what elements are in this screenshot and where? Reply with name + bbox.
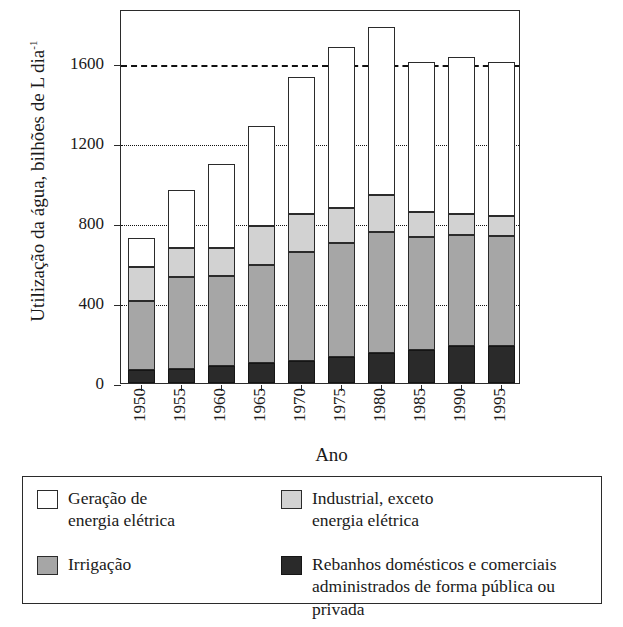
bar-segment [488, 346, 515, 383]
bar-segment [288, 77, 315, 214]
bar-segment [488, 62, 515, 216]
bar-segment [128, 370, 155, 383]
y-tick-800 [114, 225, 121, 226]
x-tick-label-1995: 1995 [490, 388, 510, 422]
y-tick-0 [114, 385, 121, 386]
y-tick-label-0: 0 [96, 374, 105, 394]
bar-segment [368, 232, 395, 353]
bar-segment [328, 243, 355, 357]
chart-legend: Geração deenergia elétricaIndustrial, ex… [22, 476, 602, 604]
x-tick-label-1980: 1980 [370, 388, 390, 422]
x-axis-tick-labels: 1950195519601965197019751980198519901995 [120, 388, 520, 448]
bar-1960[interactable] [208, 164, 235, 383]
bar-segment [368, 27, 395, 195]
bar-segment [168, 369, 195, 383]
y-tick-400 [114, 305, 121, 306]
bar-segment [448, 57, 475, 214]
bar-segment [488, 236, 515, 346]
x-axis-title-text: Ano [315, 444, 348, 465]
bar-1995[interactable] [488, 62, 515, 383]
bar-segment [448, 235, 475, 346]
legend-swatch-white [37, 490, 58, 509]
legend-item[interactable]: Rebanhos domésticos e comerciaisadminist… [281, 553, 593, 620]
x-tick-label-1970: 1970 [290, 388, 310, 422]
y-tick-label-800: 800 [79, 214, 105, 234]
x-axis-title: Ano [0, 444, 623, 466]
bar-segment [128, 301, 155, 370]
chart-figure: Utilização da água, bilhões de L dia-1 0… [0, 0, 623, 627]
bar-1980[interactable] [368, 27, 395, 383]
bar-segment [288, 252, 315, 361]
bar-segment [328, 357, 355, 383]
bar-segment [368, 353, 395, 383]
bar-segment [168, 277, 195, 369]
legend-item[interactable]: Irrigação [37, 553, 131, 575]
bar-1950[interactable] [128, 238, 155, 383]
legend-item[interactable]: Industrial, excetoenergia elétrica [281, 487, 433, 532]
x-tick-label-1955: 1955 [170, 388, 190, 422]
bar-segment [328, 208, 355, 243]
bar-segment [448, 214, 475, 235]
legend-label-line2: energia elétrica [312, 509, 433, 531]
bar-segment [408, 62, 435, 212]
x-tick-label-1975: 1975 [330, 388, 350, 422]
bar-segment [128, 267, 155, 301]
legend-label: Geração deenergia elétrica [68, 487, 175, 532]
legend-label: Industrial, excetoenergia elétrica [312, 487, 433, 532]
bar-segment [448, 346, 475, 383]
y-tick-1200 [114, 145, 121, 146]
bar-segment [208, 164, 235, 248]
legend-swatch-lightgray [281, 490, 302, 509]
legend-label: Rebanhos domésticos e comerciaisadminist… [312, 553, 593, 620]
bar-1955[interactable] [168, 190, 195, 383]
x-tick-label-1965: 1965 [250, 388, 270, 422]
bar-segment [208, 276, 235, 366]
legend-label: Irrigação [68, 553, 131, 575]
legend-item[interactable]: Geração deenergia elétrica [37, 487, 175, 532]
plot-inner [121, 11, 519, 383]
bar-segment [288, 214, 315, 252]
y-tick-1600 [114, 65, 121, 66]
y-tick-label-1600: 1600 [70, 54, 104, 74]
x-tick-label-1960: 1960 [210, 388, 230, 422]
legend-label-line2: administrados de forma pública ou privad… [312, 575, 593, 620]
bar-segment [328, 47, 355, 208]
bar-1990[interactable] [448, 57, 475, 383]
bar-segment [408, 350, 435, 383]
legend-swatch-midgray [37, 556, 58, 575]
bar-segment [408, 212, 435, 237]
bar-1965[interactable] [248, 126, 275, 383]
legend-swatch-dark [281, 556, 302, 575]
x-tick-label-1950: 1950 [130, 388, 150, 422]
bar-1970[interactable] [288, 77, 315, 383]
bar-segment [168, 248, 195, 277]
bar-segment [368, 195, 395, 232]
y-tick-label-400: 400 [79, 294, 105, 314]
x-tick-label-1990: 1990 [450, 388, 470, 422]
y-tick-label-1200: 1200 [70, 134, 104, 154]
y-axis-tick-labels: 040080012001600 [0, 0, 113, 374]
bar-1975[interactable] [328, 47, 355, 383]
bar-segment [288, 361, 315, 383]
bar-segment [168, 190, 195, 248]
bar-segment [248, 226, 275, 265]
bar-segment [408, 237, 435, 350]
bar-group [121, 11, 519, 383]
bar-segment [208, 248, 235, 276]
bar-segment [128, 238, 155, 267]
bar-segment [208, 366, 235, 383]
bar-segment [248, 363, 275, 383]
plot-area [120, 10, 520, 384]
bar-segment [488, 216, 515, 236]
legend-label-line2: energia elétrica [68, 509, 175, 531]
bar-segment [248, 265, 275, 363]
bar-segment [248, 126, 275, 226]
bar-1985[interactable] [408, 62, 435, 383]
x-tick-label-1985: 1985 [410, 388, 430, 422]
